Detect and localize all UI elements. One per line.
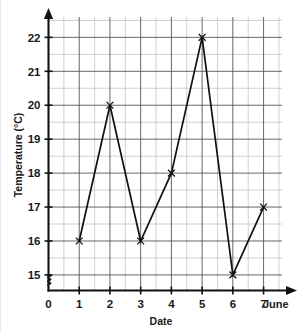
y-tick-label: 16 [28,235,41,247]
x-tick-label: 5 [199,298,206,310]
x-tick-label: 0 [45,298,51,310]
y-axis-break-zigzag [48,275,51,286]
x-tick-label: 6 [230,298,236,310]
x-tick-label: 4 [168,298,175,310]
x-tick-label: 2 [107,298,113,310]
chart-canvas: 1516171819202122 01234567 Temperature (°… [1,0,306,331]
y-tick-label: 19 [28,133,41,145]
x-tick-label: 1 [76,298,83,310]
y-tick-label: 18 [28,167,41,179]
chart-background [1,0,306,331]
y-tick-label: 20 [28,99,41,111]
y-tick-label: 21 [28,66,41,78]
y-tick-label: 17 [28,201,41,213]
y-axis-title: Temperature (°C) [12,113,24,198]
x-tick-label: 3 [137,298,143,310]
y-tick-label: 22 [28,32,41,44]
temperature-line-chart: 1516171819202122 01234567 Temperature (°… [0,0,306,331]
x-axis-end-label: June [263,298,289,310]
y-tick-label: 15 [28,269,41,281]
x-axis-title: Date [150,315,173,327]
